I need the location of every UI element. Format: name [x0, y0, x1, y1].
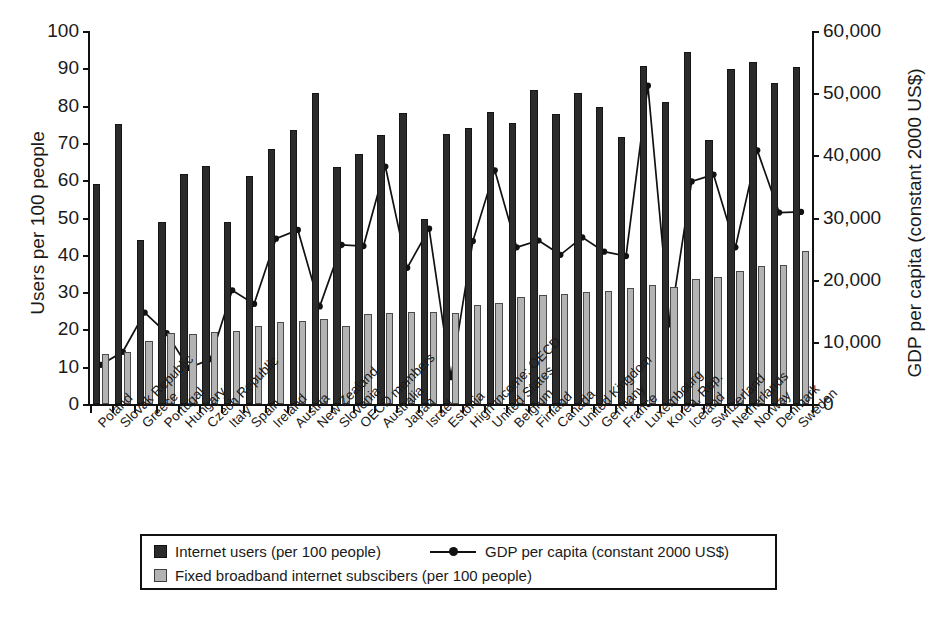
bar-internet-users	[465, 128, 472, 404]
legend-swatch-light-square	[154, 569, 167, 582]
y-axis-right-tick-label: 20,000	[823, 269, 881, 291]
bar-group	[199, 31, 221, 404]
bar-internet-users	[509, 123, 516, 404]
bar-internet-users	[552, 114, 559, 404]
bar-group	[768, 31, 790, 404]
y-axis-right-tick	[812, 280, 819, 282]
y-axis-right-tick-label: 30,000	[823, 207, 881, 229]
bar-group	[637, 31, 659, 404]
y-axis-left-tick	[83, 68, 90, 70]
bar-group	[353, 31, 375, 404]
bar-internet-users	[421, 219, 428, 404]
y-axis-left-tick-label: 40	[58, 244, 79, 266]
bar-fixed-broadband	[452, 313, 459, 404]
y-axis-left-tick-label: 0	[68, 393, 79, 415]
y-axis-left-tick-label: 80	[58, 95, 79, 117]
y-axis-left-title: Users per 100 people	[27, 43, 49, 403]
bar-group	[418, 31, 440, 404]
bar-internet-users	[399, 113, 406, 404]
bar-internet-users	[662, 102, 669, 404]
bar-group	[287, 31, 309, 404]
bar-group	[112, 31, 134, 404]
y-axis-left-tick	[83, 180, 90, 182]
bar-group	[703, 31, 725, 404]
y-axis-left-tick-label: 10	[58, 356, 79, 378]
y-axis-left-tick	[83, 143, 90, 145]
bar-group	[440, 31, 462, 404]
legend-label-internet-users: Internet users (per 100 people)	[175, 543, 381, 560]
y-axis-right-tick	[812, 342, 819, 344]
y-axis-right-tick	[812, 93, 819, 95]
bar-group	[134, 31, 156, 404]
legend-item-gdp-per-capita: GDP per capita (constant 2000 US$)	[430, 543, 729, 560]
bar-group	[593, 31, 615, 404]
bar-internet-users	[727, 69, 734, 404]
bar-group	[243, 31, 265, 404]
bar-internet-users	[137, 240, 144, 404]
y-axis-left-tick-label: 60	[58, 169, 79, 191]
bar-group	[462, 31, 484, 404]
bar-fixed-broadband	[802, 251, 809, 404]
plot-inner: 0102030405060708090100010,00020,00030,00…	[90, 31, 812, 404]
y-axis-left-tick-label: 90	[58, 57, 79, 79]
bar-internet-users	[793, 67, 800, 404]
bar-internet-users	[749, 62, 756, 404]
y-axis-left-tick-label: 50	[58, 207, 79, 229]
bar-fixed-broadband	[102, 354, 109, 404]
bar-internet-users	[224, 222, 231, 404]
bar-internet-users	[290, 130, 297, 404]
chart-legend: Internet users (per 100 people) Fixed br…	[140, 534, 777, 590]
x-axis-labels: PolandSlovak RepublicGreecePortugalHunga…	[88, 416, 810, 536]
bar-group	[265, 31, 287, 404]
y-axis-right-tick	[812, 155, 819, 157]
plot-area: 0102030405060708090100010,00020,00030,00…	[88, 31, 814, 406]
y-axis-left-tick	[83, 329, 90, 331]
y-axis-right-tick	[812, 31, 819, 33]
bar-group	[221, 31, 243, 404]
y-axis-right-tick-label: 10,000	[823, 331, 881, 353]
bar-internet-users	[115, 124, 122, 404]
y-axis-left-tick-label: 70	[58, 132, 79, 154]
bar-group	[178, 31, 200, 404]
bar-internet-users	[487, 112, 494, 404]
y-axis-left-tick	[83, 404, 90, 406]
bar-internet-users	[93, 184, 100, 404]
bar-group	[571, 31, 593, 404]
y-axis-right-title: GDP per capita (constant 2000 US$)	[904, 43, 926, 403]
bar-group	[790, 31, 812, 404]
y-axis-left-tick	[83, 106, 90, 108]
bar-group	[396, 31, 418, 404]
y-axis-left-tick	[83, 367, 90, 369]
bar-group	[746, 31, 768, 404]
bar-group	[506, 31, 528, 404]
bar-group	[156, 31, 178, 404]
legend-item-internet-users: Internet users (per 100 people)	[154, 543, 381, 560]
y-axis-right-tick-label: 50,000	[823, 82, 881, 104]
bar-group	[724, 31, 746, 404]
bar-internet-users	[246, 176, 253, 404]
y-axis-left-tick	[83, 255, 90, 257]
bar-group	[331, 31, 353, 404]
bar-group	[659, 31, 681, 404]
bar-group	[374, 31, 396, 404]
bar-internet-users	[377, 135, 384, 404]
bar-internet-users	[574, 93, 581, 404]
bar-internet-users	[355, 154, 362, 404]
bar-group	[681, 31, 703, 404]
bar-group	[484, 31, 506, 404]
legend-item-fixed-broadband: Fixed broadband internet subscibers (per…	[154, 567, 532, 584]
bar-group	[615, 31, 637, 404]
y-axis-left-tick-label: 30	[58, 281, 79, 303]
bar-group	[309, 31, 331, 404]
bar-internet-users	[705, 140, 712, 404]
y-axis-left-tick	[83, 218, 90, 220]
bar-internet-users	[684, 52, 691, 404]
x-axis-tick	[90, 404, 92, 413]
y-axis-left-tick	[83, 292, 90, 294]
legend-label-fixed-broadband: Fixed broadband internet subscibers (per…	[175, 567, 532, 584]
bar-internet-users	[443, 134, 450, 404]
bar-group	[90, 31, 112, 404]
bar-internet-users	[596, 107, 603, 404]
legend-swatch-dark-square	[154, 545, 167, 558]
legend-swatch-line-marker-icon	[430, 545, 476, 558]
